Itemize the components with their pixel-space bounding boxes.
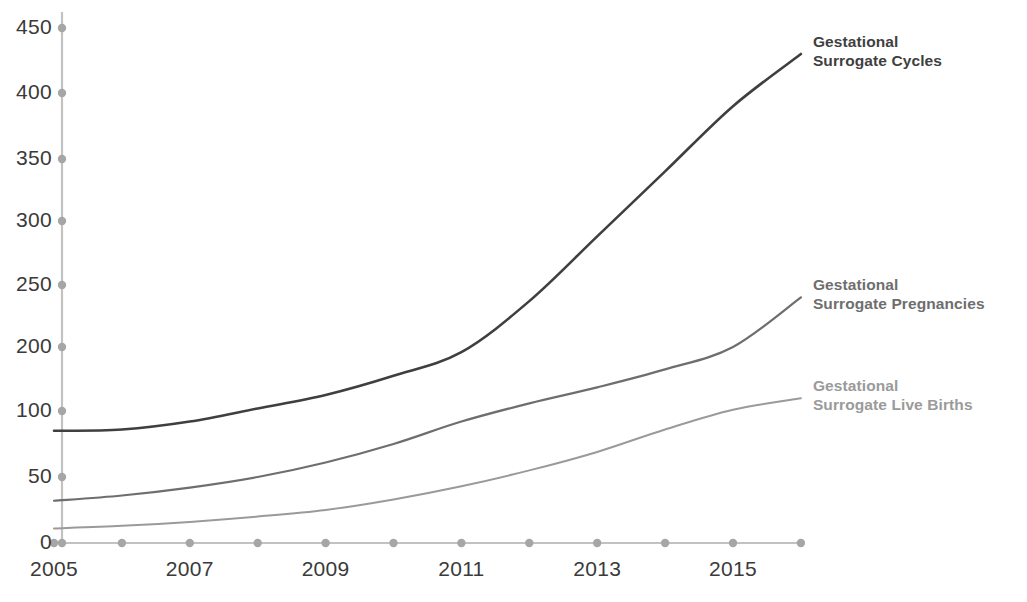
y-tick-dot (58, 407, 66, 415)
x-tick-dot (457, 539, 465, 547)
series-lines-group (54, 54, 801, 528)
series-label-line2: Surrogate Live Births (813, 395, 973, 414)
x-tick-label: 2015 (693, 557, 773, 581)
series-label-line1: Gestational (813, 276, 899, 293)
x-tick-dot (118, 539, 126, 547)
x-tick-dot (525, 539, 533, 547)
series-label: GestationalSurrogate Cycles (813, 32, 942, 70)
y-tick-label: 350 (0, 146, 52, 170)
series-label: GestationalSurrogate Pregnancies (813, 275, 985, 313)
y-tick-label: 400 (0, 80, 52, 104)
x-tick-dot (797, 539, 805, 547)
series-line (54, 297, 801, 500)
axis-group (50, 12, 805, 547)
x-tick-label: 2013 (557, 557, 637, 581)
y-tick-dot (58, 281, 66, 289)
series-label-line2: Surrogate Pregnancies (813, 294, 985, 313)
y-tick-label: 50 (0, 464, 52, 488)
x-tick-dot (321, 539, 329, 547)
x-tick-label: 2007 (150, 557, 230, 581)
series-label-line2: Surrogate Cycles (813, 51, 942, 70)
y-tick-dot (58, 155, 66, 163)
series-line (54, 398, 801, 528)
y-tick-dot (58, 24, 66, 32)
y-tick-dot (58, 343, 66, 351)
series-label-line1: Gestational (813, 377, 899, 394)
y-tick-dot (58, 217, 66, 225)
y-tick-label: 450 (0, 15, 52, 39)
x-tick-dot (186, 539, 194, 547)
series-label: GestationalSurrogate Live Births (813, 376, 973, 414)
x-tick-dot (593, 539, 601, 547)
x-tick-label: 2009 (286, 557, 366, 581)
x-tick-dot (254, 539, 262, 547)
x-tick-dot (729, 539, 737, 547)
x-tick-dot (389, 539, 397, 547)
y-tick-label: 300 (0, 208, 52, 232)
series-line (54, 54, 801, 431)
y-tick-label: 250 (0, 272, 52, 296)
y-tick-dot (58, 89, 66, 97)
y-tick-dot (58, 539, 66, 547)
line-chart: 050100200250300350400450 200520072009201… (0, 0, 1027, 602)
y-tick-label: 0 (0, 530, 52, 554)
y-tick-label: 100 (0, 398, 52, 422)
x-tick-label: 2005 (14, 557, 94, 581)
series-label-line1: Gestational (813, 33, 899, 50)
y-tick-label: 200 (0, 334, 52, 358)
y-tick-dot (58, 473, 66, 481)
x-tick-label: 2011 (421, 557, 501, 581)
x-tick-dot (661, 539, 669, 547)
